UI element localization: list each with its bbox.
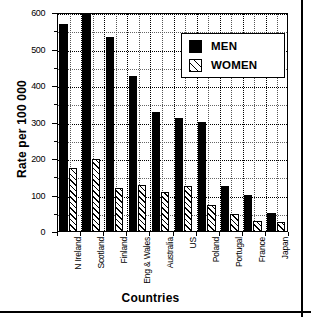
y-axis-tick-label: 500 [0, 45, 45, 55]
y-axis-tick-minor [54, 104, 57, 105]
x-axis-label-eng-wales: Eng & Wales [142, 237, 152, 284]
legend-label-men: MEN [211, 40, 237, 52]
bar-men-finland [106, 37, 114, 232]
bar-women-japan [277, 222, 285, 232]
hatched-square-icon [189, 59, 202, 72]
bar-men-portugal [221, 186, 229, 232]
legend-label-women: WOMEN [211, 59, 257, 71]
y-axis-tick-minor [54, 141, 57, 142]
y-axis-tick-minor [54, 177, 57, 178]
y-axis-tick-label: 0 [0, 227, 45, 237]
legend-entry-women: WOMEN [189, 57, 257, 73]
frame-bottom-rule [0, 311, 311, 313]
bar-women-portugal [230, 214, 238, 232]
legend-entry-men: MEN [189, 38, 237, 54]
bar-men-france [244, 195, 252, 232]
x-axis-tick [80, 232, 81, 236]
x-axis-label-n-ireland: N Ireland [73, 237, 83, 270]
y-axis-tick-label: 200 [0, 154, 45, 164]
y-axis-tick [52, 50, 57, 51]
y-axis-tick-minor [54, 214, 57, 215]
x-axis-tick [196, 232, 197, 236]
bar-men-us [175, 118, 183, 232]
frame-right-rule [301, 0, 303, 317]
y-axis-tick [52, 123, 57, 124]
y-axis-title: Rate per 100 000 [15, 59, 29, 199]
x-axis-tick [242, 232, 243, 236]
y-axis-tick [52, 159, 57, 160]
bar-women-scotland [92, 159, 100, 232]
y-axis-tick-label: 600 [0, 8, 45, 18]
bar-women-us [184, 186, 192, 232]
x-axis-label-scotland: Scotland [96, 237, 106, 268]
x-axis-label-australia: Australia [165, 237, 175, 268]
bar-men-scotland [82, 13, 90, 232]
y-axis-tick-label: 100 [0, 191, 45, 201]
bar-women-eng-wales [138, 185, 146, 232]
page-frame: Rate per 100 000 0100200300400500600 N I… [0, 0, 311, 317]
x-axis-label-finland: Finland [119, 237, 129, 263]
x-axis-label-us: US [188, 237, 198, 248]
bar-women-poland [207, 205, 215, 232]
y-axis-tick-minor [54, 68, 57, 69]
x-axis-label-poland: Poland [211, 237, 221, 262]
x-axis-tick [173, 232, 174, 236]
bar-women-n-ireland [69, 168, 77, 232]
solid-square-icon [189, 40, 202, 53]
bar-men-poland [198, 122, 206, 232]
bar-women-finland [115, 188, 123, 232]
x-axis-label-japan: Japan [280, 237, 290, 259]
x-axis-tick [288, 232, 289, 236]
x-axis-tick [57, 232, 58, 236]
chart-legend: MEN WOMEN [181, 33, 285, 78]
y-axis-tick-minor [54, 31, 57, 32]
y-axis-tick [52, 13, 57, 14]
y-axis-tick [52, 86, 57, 87]
x-axis-label-portugal: Portugal [234, 237, 244, 267]
bar-men-eng-wales [129, 76, 137, 232]
bar-men-japan [267, 213, 275, 232]
x-axis-tick [126, 232, 127, 236]
bar-women-australia [161, 192, 169, 232]
x-axis-tick [219, 232, 220, 236]
x-axis-tick [149, 232, 150, 236]
bar-women-france [253, 221, 261, 232]
x-axis-tick [103, 232, 104, 236]
y-axis-tick-label: 300 [0, 118, 45, 128]
bar-men-n-ireland [59, 24, 67, 232]
y-axis-tick-label: 400 [0, 81, 45, 91]
bar-chart-figure: Rate per 100 000 0100200300400500600 N I… [0, 0, 301, 311]
x-axis-tick [265, 232, 266, 236]
y-axis-tick [52, 196, 57, 197]
x-axis-title: Countries [0, 291, 301, 305]
bar-men-australia [152, 112, 160, 232]
x-axis-label-france: France [257, 237, 267, 262]
